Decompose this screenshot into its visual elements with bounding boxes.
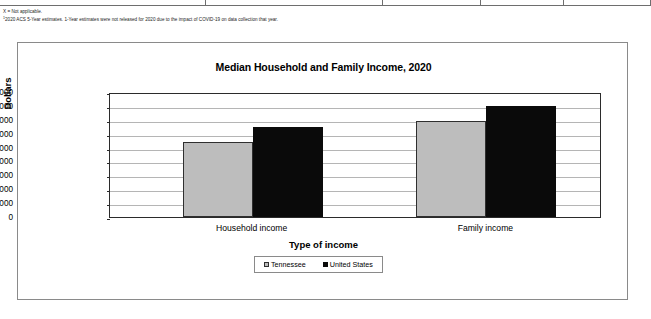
legend-label-united-states: United States [330,260,373,269]
y-tick-label: 30,000 [0,172,13,180]
y-tick-mark [107,94,110,95]
table-column-divider [382,0,383,6]
table-bottom-border [0,0,651,7]
y-tick-label: 70,000 [0,117,13,125]
table-column-divider [205,0,206,6]
y-tick-label: 50,000 [0,145,13,153]
legend-item-united-states: United States [323,260,373,269]
footnote-not-applicable: X = Not applicable. [3,8,433,15]
chart-title: Median Household and Family Income, 2020 [18,61,629,73]
y-tick-label: 20,000 [0,186,13,194]
footnotes: X = Not applicable. 12020 ACS 5-Year est… [3,8,433,23]
bar-tennessee-family-income [416,121,486,217]
legend-swatch-tennessee [264,262,269,267]
y-tick-label: 0 [0,214,13,222]
y-tick-mark [107,136,110,137]
y-tick-mark [107,205,110,206]
y-tick-mark [107,191,110,192]
y-tick-mark [107,163,110,164]
y-tick-mark [107,150,110,151]
y-tick-label: 80,000 [0,103,13,111]
bar-united-states-family-income [486,106,556,217]
bar-united-states-household-income [253,127,323,217]
y-tick-mark [107,177,110,178]
legend-swatch-united-states [323,262,328,267]
y-tick-label: 40,000 [0,158,13,166]
table-column-divider [563,0,564,6]
legend-label-tennessee: Tennessee [271,260,306,269]
table-bottom-rule [0,5,651,6]
x-category-label: Household income [182,223,322,233]
y-tick-mark [107,219,110,220]
y-tick-mark [107,122,110,123]
y-tick-mark [107,108,110,109]
x-category-label: Family income [415,223,555,233]
bar-tennessee-household-income [183,142,253,217]
chart-container: Median Household and Family Income, 2020… [17,42,628,300]
y-tick-label: 90,000 [0,89,13,97]
footnote-acs-text: 2020 ACS 5-Year estimates. 1-Year estima… [5,17,278,22]
y-tick-label: 10,000 [0,200,13,208]
table-column-divider [480,0,481,6]
x-axis-title: Type of income [18,239,629,250]
chart-legend: Tennessee United States [254,256,383,273]
legend-item-tennessee: Tennessee [264,260,306,269]
y-tick-label: 60,000 [0,131,13,139]
footnote-acs-estimates: 12020 ACS 5-Year estimates. 1-Year estim… [3,15,433,23]
plot-area [109,93,601,218]
